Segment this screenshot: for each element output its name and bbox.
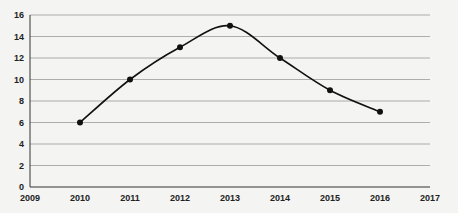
gridlines (30, 15, 430, 166)
y-axis-ticks: 0246810121416 (14, 10, 24, 192)
y-tick-label: 8 (19, 96, 24, 106)
data-point-marker (327, 87, 333, 93)
data-point-marker (277, 55, 283, 61)
y-tick-label: 16 (14, 10, 24, 20)
data-point-marker (177, 44, 183, 50)
x-tick-label: 2017 (420, 193, 440, 203)
y-tick-label: 12 (14, 53, 24, 63)
data-point-marker (227, 23, 233, 29)
y-tick-label: 6 (19, 118, 24, 128)
line-chart: 0246810121416 20092010201120122013201420… (0, 0, 458, 213)
data-point-marker (377, 109, 383, 115)
x-tick-label: 2013 (220, 193, 240, 203)
x-tick-label: 2016 (370, 193, 390, 203)
series-line (80, 26, 380, 123)
data-point-marker (77, 120, 83, 126)
y-tick-label: 4 (19, 139, 24, 149)
x-tick-label: 2010 (70, 193, 90, 203)
y-tick-label: 0 (19, 182, 24, 192)
data-points (77, 23, 383, 126)
x-tick-label: 2015 (320, 193, 340, 203)
x-tick-label: 2012 (170, 193, 190, 203)
data-point-marker (127, 77, 133, 83)
x-tick-label: 2009 (20, 193, 40, 203)
x-tick-label: 2011 (120, 193, 140, 203)
y-tick-label: 2 (19, 161, 24, 171)
y-tick-label: 14 (14, 32, 24, 42)
x-axis-ticks: 200920102011201220132014201520162017 (20, 193, 440, 203)
y-tick-label: 10 (14, 75, 24, 85)
x-tick-label: 2014 (270, 193, 290, 203)
